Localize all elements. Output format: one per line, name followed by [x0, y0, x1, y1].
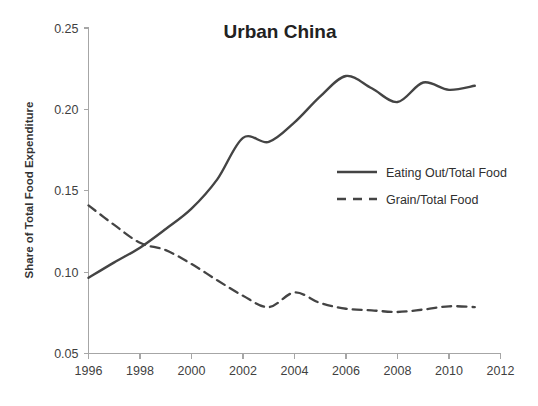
x-tick-label: 2010 — [435, 364, 463, 378]
y-tick-label: 0.15 — [54, 184, 78, 198]
x-tick-label: 1998 — [126, 364, 154, 378]
legend-label-1: Eating Out/Total Food — [386, 166, 507, 180]
x-tick-label: 1996 — [75, 364, 103, 378]
chart-title: Urban China — [224, 21, 337, 42]
x-axis-ticks: 199619982000200220042006200820102012 — [75, 354, 515, 378]
y-tick-label: 0.25 — [54, 22, 78, 36]
legend-label-2: Grain/Total Food — [386, 193, 478, 207]
x-tick-label: 2008 — [384, 364, 412, 378]
x-tick-label: 2000 — [178, 364, 206, 378]
y-axis-title: Share of Total Food Expenditure — [23, 102, 35, 279]
x-tick-label: 2004 — [281, 364, 309, 378]
chart-figure: Urban China Share of Total Food Expendit… — [0, 0, 538, 406]
y-axis-ticks: 0.050.100.150.200.25 — [54, 22, 88, 362]
x-tick-label: 2002 — [229, 364, 257, 378]
y-tick-label: 0.20 — [54, 103, 78, 117]
chart-legend: Eating Out/Total FoodGrain/Total Food — [337, 166, 507, 207]
y-tick-label: 0.05 — [54, 347, 78, 361]
x-tick-label: 2006 — [332, 364, 360, 378]
chart-canvas: Urban China Share of Total Food Expendit… — [0, 0, 538, 406]
series-line-2 — [89, 205, 475, 312]
y-tick-label: 0.10 — [54, 266, 78, 280]
x-tick-label: 2012 — [487, 364, 515, 378]
